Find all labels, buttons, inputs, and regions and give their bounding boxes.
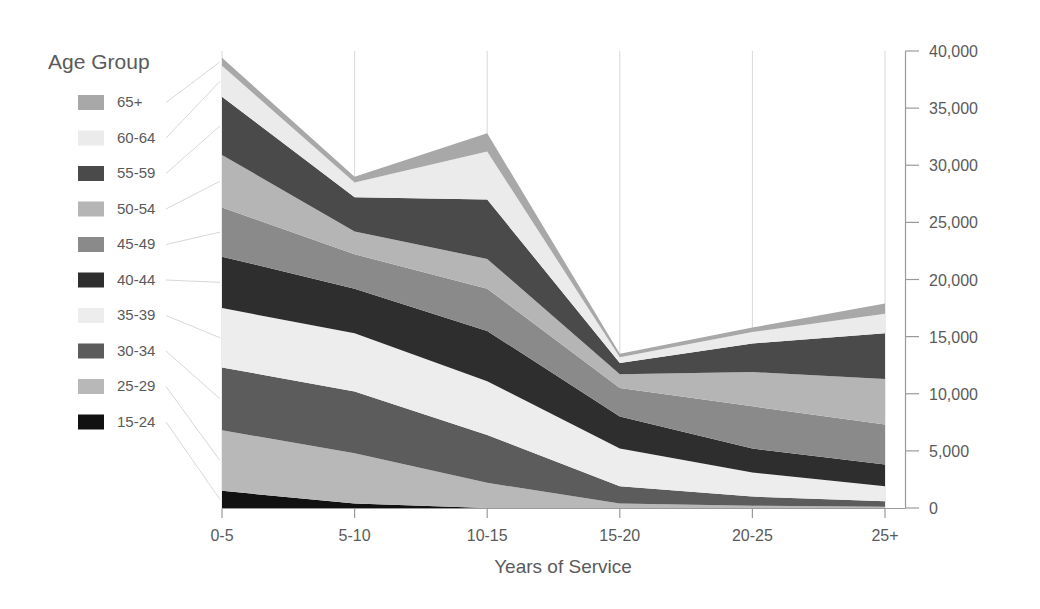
y-axis: 05,00010,00015,00020,00025,00030,00035,0… (906, 43, 979, 517)
x-axis-title: Years of Service (494, 556, 632, 577)
x-tick-label-5-10: 5-10 (339, 527, 371, 544)
legend-swatch-25-29[interactable] (78, 379, 104, 394)
legend-label-15-24[interactable]: 15-24 (117, 413, 155, 430)
legend-items: 65+60-6455-5950-5445-4940-4435-3930-3425… (78, 93, 155, 430)
legend-leader-lines (166, 62, 220, 500)
area-chart: 0-55-1010-1515-2020-2525+ 05,00010,00015… (0, 0, 1040, 609)
legend-label-30-34[interactable]: 30-34 (117, 342, 155, 359)
y-tick-label-30,000: 30,000 (929, 157, 978, 174)
leader-line-35-39 (166, 316, 220, 338)
leader-line-40-44 (166, 280, 220, 282)
legend-swatch-50-54[interactable] (78, 202, 104, 217)
y-tick-label-25,000: 25,000 (929, 214, 978, 231)
x-tick-label-0-5: 0-5 (210, 527, 233, 544)
legend-swatch-30-34[interactable] (78, 344, 104, 359)
legend-label-25-29[interactable]: 25-29 (117, 377, 155, 394)
legend-swatch-35-39[interactable] (78, 308, 104, 323)
y-tick-label-0: 0 (929, 500, 938, 517)
leader-line-30-34 (166, 351, 220, 399)
leader-line-60-64 (166, 81, 220, 138)
leader-line-55-59 (166, 126, 220, 174)
y-tick-label-40,000: 40,000 (929, 43, 978, 60)
legend-swatch-40-44[interactable] (78, 273, 104, 288)
legend-swatch-45-49[interactable] (78, 237, 104, 252)
legend-label-35-39[interactable]: 35-39 (117, 306, 155, 323)
x-tick-label-25+: 25+ (871, 527, 898, 544)
legend: Age Group 65+60-6455-5950-5445-4940-4435… (48, 50, 155, 430)
leader-line-45-49 (166, 232, 220, 244)
x-tick-label-15-20: 15-20 (599, 527, 640, 544)
leader-line-15-24 (166, 422, 220, 499)
legend-label-50-54[interactable]: 50-54 (117, 200, 155, 217)
legend-swatch-65+[interactable] (78, 95, 104, 110)
legend-swatch-60-64[interactable] (78, 131, 104, 146)
x-tick-label-20-25: 20-25 (732, 527, 773, 544)
legend-label-65+[interactable]: 65+ (117, 93, 143, 110)
y-tick-label-15,000: 15,000 (929, 329, 978, 346)
legend-title: Age Group (48, 50, 150, 73)
leader-line-50-54 (166, 181, 220, 209)
x-tick-label-10-15: 10-15 (467, 527, 508, 544)
x-axis: 0-55-1010-1515-2020-2525+ (210, 509, 898, 545)
chart-canvas: 0-55-1010-1515-2020-2525+ 05,00010,00015… (0, 0, 1040, 609)
legend-label-55-59[interactable]: 55-59 (117, 164, 155, 181)
y-tick-label-35,000: 35,000 (929, 100, 978, 117)
legend-label-60-64[interactable]: 60-64 (117, 129, 155, 146)
legend-label-40-44[interactable]: 40-44 (117, 271, 155, 288)
legend-swatch-55-59[interactable] (78, 166, 104, 181)
y-tick-label-5,000: 5,000 (929, 443, 969, 460)
y-tick-label-10,000: 10,000 (929, 386, 978, 403)
legend-label-45-49[interactable]: 45-49 (117, 235, 155, 252)
leader-line-25-29 (166, 387, 220, 461)
y-tick-label-20,000: 20,000 (929, 272, 978, 289)
leader-line-65+ (166, 62, 220, 103)
legend-swatch-15-24[interactable] (78, 415, 104, 430)
stacked-area-bands (222, 58, 885, 508)
